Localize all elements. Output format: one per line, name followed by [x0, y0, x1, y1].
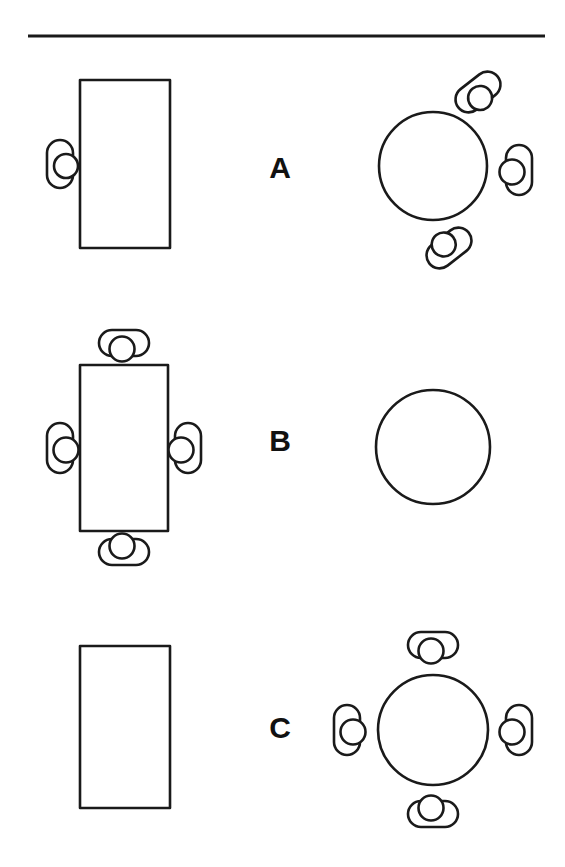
seated-person — [99, 534, 149, 566]
rectangular-table — [80, 646, 170, 808]
person-head — [419, 639, 444, 664]
seated-person — [47, 140, 78, 188]
row-label-c: C — [269, 711, 291, 744]
diagram-root: A — [0, 0, 565, 867]
person-head — [500, 720, 525, 745]
seated-person — [47, 423, 79, 473]
row-b-rectangular-table-group — [47, 330, 201, 565]
seated-person — [408, 632, 458, 664]
row-b-round-table-group — [376, 390, 490, 504]
person-head — [500, 160, 525, 185]
rectangular-table — [80, 80, 170, 248]
row-label-b: B — [269, 424, 291, 457]
row-c-rectangular-table-group — [80, 646, 170, 808]
seated-person — [169, 423, 202, 473]
round-table — [376, 390, 490, 504]
seated-person — [334, 705, 366, 755]
round-table — [378, 675, 488, 785]
person-head — [341, 720, 366, 745]
person-head — [419, 796, 444, 821]
person-head — [169, 438, 194, 463]
row-b: B — [47, 330, 490, 565]
seated-person — [450, 66, 508, 121]
seated-person — [408, 796, 458, 828]
seated-person — [500, 705, 533, 755]
person-head — [110, 534, 135, 559]
person-head — [54, 154, 78, 178]
seated-person — [99, 330, 149, 362]
seated-person — [500, 145, 533, 195]
row-c-round-table-group — [334, 632, 532, 827]
round-table — [379, 112, 487, 220]
row-a: A — [47, 66, 532, 273]
person-head — [110, 337, 135, 362]
seated-person — [418, 218, 476, 273]
rectangular-table — [80, 365, 168, 531]
row-a-round-table-group — [379, 66, 532, 273]
row-c: C — [80, 632, 532, 827]
person-head — [54, 438, 79, 463]
row-label-a: A — [269, 151, 291, 184]
row-a-rectangular-table-group — [47, 80, 170, 248]
seating-diagram-figure: A — [0, 0, 565, 867]
